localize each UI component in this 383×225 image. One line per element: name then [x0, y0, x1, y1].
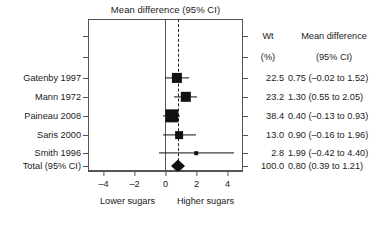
- x-axis-tick-label: 4: [213, 179, 243, 189]
- row-tick: [243, 135, 248, 136]
- weight-value: 22.5: [252, 73, 284, 83]
- effect-header-line1: Mean difference: [286, 31, 382, 41]
- row-tick: [83, 166, 88, 167]
- row-tick: [83, 116, 88, 117]
- row-tick: [83, 57, 88, 58]
- row-tick: [243, 36, 248, 37]
- study-label: Total (95% CI): [23, 161, 81, 171]
- x-axis-tick: [227, 171, 228, 176]
- row-tick: [243, 57, 248, 58]
- page-title: Mean difference (95% CI): [88, 4, 243, 15]
- effect-marker-square: [180, 92, 190, 102]
- axis-label-lower: Lower sugars: [100, 196, 155, 206]
- zero-reference-line: [165, 19, 166, 171]
- forest-plot: Mean difference (95% CI) Wt Mean differe…: [0, 0, 383, 225]
- weight-value: 100.0: [252, 161, 284, 171]
- row-tick: [243, 97, 248, 98]
- effect-marker-square: [172, 73, 182, 83]
- row-tick: [243, 153, 248, 154]
- x-axis-tick: [134, 171, 135, 176]
- weight-value: 2.8: [252, 148, 284, 158]
- axis-label-higher: Higher sugars: [177, 196, 234, 206]
- weight-value: 23.2: [252, 92, 284, 102]
- effect-value: 0.75 (–0.02 to 1.52): [288, 73, 382, 83]
- effect-marker-square: [165, 109, 178, 122]
- pooled-estimate-line: [178, 19, 179, 171]
- weight-value: 13.0: [252, 130, 284, 140]
- x-axis-tick-label: –2: [120, 179, 150, 189]
- effect-value: 0.90 (–0.16 to 1.96): [288, 130, 382, 140]
- effect-marker-square: [176, 131, 184, 139]
- effect-value: 1.99 (–0.42 to 4.40): [288, 148, 382, 158]
- weight-header-line2: (%): [252, 52, 284, 62]
- study-label: Gatenby 1997: [23, 73, 81, 83]
- effect-value: 1.30 (0.55 to 2.05): [288, 92, 382, 102]
- row-tick: [83, 135, 88, 136]
- weight-value: 38.4: [252, 111, 284, 121]
- study-label: Mann 1972: [35, 92, 81, 102]
- effect-value: 0.40 (–0.13 to 0.93): [288, 111, 382, 121]
- x-axis-tick-label: 0: [151, 179, 181, 189]
- row-tick: [243, 166, 248, 167]
- effect-value: 0.80 (0.39 to 1.21): [288, 161, 382, 171]
- study-label: Smith 1996: [35, 148, 81, 158]
- x-axis-tick: [165, 171, 166, 176]
- x-axis-tick-label: 2: [182, 179, 212, 189]
- row-tick: [243, 116, 248, 117]
- effect-header-line2: (95% CI): [286, 52, 382, 62]
- row-tick: [83, 153, 88, 154]
- x-axis-tick-label: –4: [89, 179, 119, 189]
- row-tick: [243, 78, 248, 79]
- x-axis-tick: [103, 171, 104, 176]
- weight-header-line1: Wt: [252, 31, 284, 41]
- row-tick: [83, 97, 88, 98]
- row-tick: [83, 78, 88, 79]
- x-axis-tick: [196, 171, 197, 176]
- effect-marker-square: [195, 151, 199, 155]
- study-label: Paineau 2008: [24, 111, 81, 121]
- study-label: Saris 2000: [37, 130, 81, 140]
- row-tick: [83, 36, 88, 37]
